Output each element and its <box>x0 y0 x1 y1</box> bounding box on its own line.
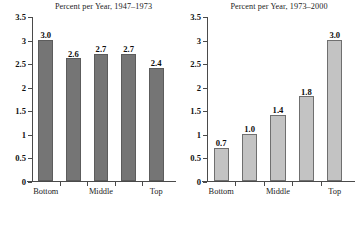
x-axis-category-label: Top <box>150 188 163 196</box>
y-axis-tick <box>28 135 32 136</box>
bar-value-label: 1.8 <box>301 88 312 97</box>
y-axis-tick <box>203 64 207 65</box>
y-axis-tick-label: 1 <box>197 131 201 140</box>
y-axis-tick-label: 0.5 <box>190 154 201 163</box>
y-axis-tick <box>203 182 207 183</box>
y-axis-tick <box>203 158 207 159</box>
x-axis-tick <box>87 182 88 186</box>
chart-title-left: Percent per Year, 1947–1973 <box>0 2 191 11</box>
plot-area-left: 00.511.522.533.53.02.62.72.72.4 <box>32 17 170 182</box>
x-axis-tick <box>115 182 116 186</box>
y-axis-tick-label: 3 <box>22 36 26 45</box>
y-axis-tick <box>203 17 207 18</box>
bar: 0.7 <box>214 148 229 181</box>
bar: 2.4 <box>149 68 164 181</box>
plot-area-right: 00.511.522.533.50.71.01.41.83.0 <box>207 17 349 182</box>
y-axis-tick-label: 3.5 <box>190 13 201 22</box>
x-axis-category-label: Middle <box>266 188 290 196</box>
x-axis-tick <box>235 182 236 186</box>
y-axis-tick-label: 1.5 <box>15 107 26 116</box>
y-axis-tick <box>28 158 32 159</box>
y-axis-tick-label: 2 <box>22 83 26 92</box>
y-axis-tick-label: 2.5 <box>15 60 26 69</box>
bar-value-label: 2.7 <box>96 45 107 54</box>
bar-value-label: 2.6 <box>68 50 79 59</box>
y-axis-tick-label: 1 <box>22 131 26 140</box>
bar-value-label: 2.7 <box>123 45 134 54</box>
x-axis-tick <box>292 182 293 186</box>
bar: 2.6 <box>66 58 81 181</box>
x-axis-tick <box>321 182 322 186</box>
y-axis-tick <box>28 64 32 65</box>
y-axis-tick-label: 2.5 <box>190 60 201 69</box>
x-axis-category-label: Top <box>328 188 341 196</box>
x-axis-category-label: Bottom <box>209 188 234 196</box>
y-axis-tick-label: 1.5 <box>190 107 201 116</box>
x-axis-baseline-left <box>27 181 176 182</box>
bar: 2.7 <box>94 54 109 181</box>
y-axis-tick-label: 0 <box>197 178 201 187</box>
x-axis-category-label: Bottom <box>33 188 58 196</box>
y-axis-tick <box>28 41 32 42</box>
y-axis-tick-label: 3 <box>197 36 201 45</box>
chart-panel-left: Percent per Year, 1947–1973 00.511.522.5… <box>0 0 175 226</box>
y-axis-spine-right <box>207 17 208 182</box>
y-axis-tick <box>28 88 32 89</box>
bar-value-label: 2.4 <box>151 59 162 68</box>
y-axis-tick <box>203 111 207 112</box>
y-axis-tick-label: 2 <box>197 83 201 92</box>
y-axis-tick <box>203 88 207 89</box>
bar: 1.8 <box>299 96 314 181</box>
bar-value-label: 1.0 <box>244 125 255 134</box>
x-axis-tick <box>142 182 143 186</box>
bar: 1.4 <box>270 115 285 181</box>
y-axis-tick <box>28 111 32 112</box>
y-axis-tick-label: 0 <box>22 178 26 187</box>
x-axis-category-label: Middle <box>89 188 113 196</box>
y-axis-tick <box>203 135 207 136</box>
chart-title-right: Percent per Year, 1973–2000 <box>175 2 355 11</box>
bar-value-label: 3.0 <box>40 31 51 40</box>
x-axis-baseline-right <box>202 181 355 182</box>
bar-value-label: 3.0 <box>329 31 340 40</box>
y-axis-tick-label: 3.5 <box>15 13 26 22</box>
y-axis-tick <box>203 41 207 42</box>
bar: 3.0 <box>38 40 53 181</box>
y-axis-spine-left <box>32 17 33 182</box>
bar: 1.0 <box>242 134 257 181</box>
y-axis-tick <box>28 17 32 18</box>
bar-value-label: 0.7 <box>216 139 227 148</box>
y-axis-tick <box>28 182 32 183</box>
bar: 3.0 <box>327 40 342 181</box>
bar-value-label: 1.4 <box>273 106 284 115</box>
figure-container: Percent per Year, 1947–1973 00.511.522.5… <box>0 0 355 226</box>
bar: 2.7 <box>121 54 136 181</box>
x-axis-tick <box>60 182 61 186</box>
chart-panel-right: Percent per Year, 1973–2000 00.511.522.5… <box>175 0 355 226</box>
y-axis-tick-label: 0.5 <box>15 154 26 163</box>
x-axis-tick <box>264 182 265 186</box>
